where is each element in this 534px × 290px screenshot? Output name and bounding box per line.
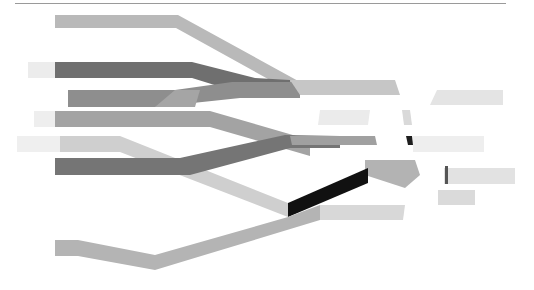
flow-band-b18 (438, 190, 475, 205)
flow-band-b8 (318, 110, 370, 125)
flow-band-b13 (320, 205, 405, 220)
flow-band-b16 (413, 136, 484, 152)
flow-band-diagram (0, 0, 534, 290)
flow-band-b10 (365, 160, 420, 188)
flow-band-b14 (430, 90, 503, 105)
flow-band-b17 (444, 168, 515, 184)
flow-band-b16-dark (406, 136, 413, 145)
flow-band-b9 (290, 136, 377, 145)
flow-band-b15 (402, 110, 412, 125)
flow-band-b4-fade (34, 111, 55, 127)
flow-band-b12 (55, 205, 320, 270)
flow-band-b5-fade (17, 136, 60, 152)
flow-band-b17-dark (445, 166, 448, 184)
flow-band-b7 (290, 80, 400, 95)
flow-band-b2-fade (28, 62, 55, 78)
